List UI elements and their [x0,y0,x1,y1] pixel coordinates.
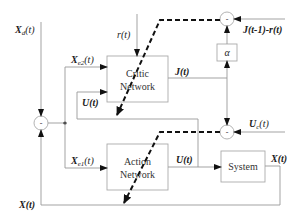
xd-label: Xd(t) [14,24,35,37]
adaptive-critic-diagram: Critic Network Action Network System α -… [0,0,304,217]
svg-text:-: - [40,119,43,128]
left-summing-junction: - [34,116,48,130]
xe2-label: Xe2(t) [70,54,94,67]
r-label: r(t) [117,29,131,41]
alpha-block: α [217,44,237,61]
action-network-block: Action Network [107,144,168,190]
j-label: J(t) [174,66,189,78]
xe1-label: Xe1(t) [70,155,94,168]
critic-label-2: Network [120,81,155,92]
system-block: System [221,151,265,182]
alpha-label: α [224,47,230,58]
u-action-label: U(t) [176,154,193,166]
svg-text:-: - [226,15,229,24]
x-out-label: X(t) [270,153,287,165]
bottom-summing-junction: - [220,125,234,139]
j-prev-label: J(t-1)-r(t) [242,24,282,36]
system-label: System [228,161,258,172]
u-critic-label: U(t) [82,97,99,109]
critic-network-block: Critic Network [107,56,168,102]
x-feedback-label: X(t) [18,199,35,211]
top-summing-junction: - [220,12,234,26]
svg-text:-: - [226,128,229,137]
uc-label: Uc(t) [249,118,269,131]
